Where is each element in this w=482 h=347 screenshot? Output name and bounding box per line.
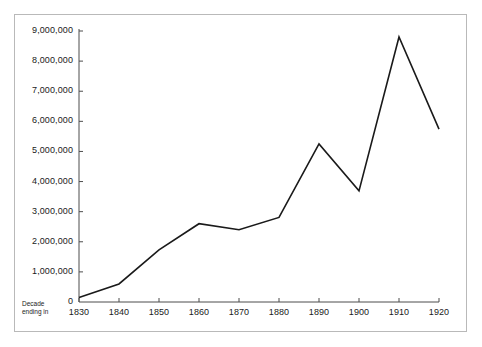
x-tick-marks	[79, 298, 439, 302]
x-tick-label: 1870	[219, 307, 259, 317]
x-axis-caption-line2: ending in	[22, 308, 48, 316]
y-tick-label: 6,000,000	[32, 115, 73, 125]
y-tick-label: 1,000,000	[32, 266, 73, 276]
axis-lines	[79, 29, 439, 302]
plot-area	[0, 0, 482, 347]
x-tick-label: 1900	[339, 307, 379, 317]
x-tick-label: 1850	[139, 307, 179, 317]
x-tick-label: 1830	[59, 307, 99, 317]
x-tick-label: 1920	[419, 307, 459, 317]
y-tick-label: 0	[68, 296, 73, 306]
x-tick-label: 1840	[99, 307, 139, 317]
x-tick-label: 1880	[259, 307, 299, 317]
x-tick-label: 1890	[299, 307, 339, 317]
x-axis-caption: Decade ending in	[22, 300, 48, 316]
x-axis-caption-line1: Decade	[22, 300, 48, 308]
y-tick-label: 2,000,000	[32, 236, 73, 246]
y-tick-label: 4,000,000	[32, 176, 73, 186]
y-tick-label: 3,000,000	[32, 206, 73, 216]
x-tick-label: 1860	[179, 307, 219, 317]
chart-figure: 01,000,0002,000,0003,000,0004,000,0005,0…	[0, 0, 482, 347]
y-tick-marks	[79, 31, 83, 272]
data-series-line	[79, 37, 439, 297]
x-tick-label: 1910	[379, 307, 419, 317]
y-tick-label: 8,000,000	[32, 55, 73, 65]
y-tick-label: 5,000,000	[32, 145, 73, 155]
y-tick-label: 9,000,000	[32, 25, 73, 35]
y-tick-label: 7,000,000	[32, 85, 73, 95]
